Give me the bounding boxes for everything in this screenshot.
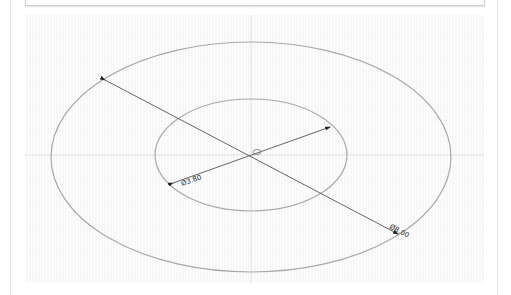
inner-diameter-label[interactable]: Ø3.80 <box>180 173 203 187</box>
outer-diameter-label[interactable]: Ø8.00 <box>388 223 410 240</box>
sketch-drawing[interactable]: Ø3.80 Ø8.00 <box>0 0 511 295</box>
